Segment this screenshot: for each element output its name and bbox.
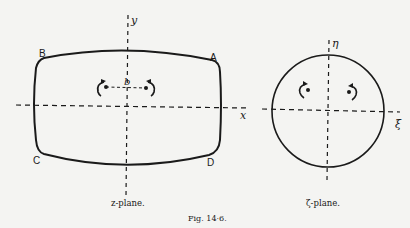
vortex-left-point bbox=[104, 85, 108, 89]
z-plane-x-axis bbox=[16, 105, 248, 108]
corner-label-c: C bbox=[33, 155, 40, 166]
zeta-vortex-right-point bbox=[347, 90, 351, 94]
zeta-vortex-left-point bbox=[306, 88, 310, 92]
corner-label-d: D bbox=[207, 157, 214, 168]
z-plane-y-axis bbox=[126, 15, 128, 196]
z-plane-y-label: y bbox=[130, 14, 138, 27]
z-plane-x-label: x bbox=[240, 109, 247, 122]
zeta-plane-caption: ζ-plane. bbox=[306, 198, 340, 208]
figure-canvas: y x b B A C D z-plane. η ξ ζ-plane. Fig.… bbox=[0, 0, 410, 228]
z-plane-diagram: y x b B A C D z-plane. bbox=[16, 14, 248, 208]
zeta-plane-xi-axis bbox=[262, 109, 400, 112]
z-plane-caption: z-plane. bbox=[111, 198, 145, 208]
zeta-plane-diagram: η ξ ζ-plane. bbox=[262, 37, 402, 208]
vortex-separation-line bbox=[106, 87, 146, 88]
figure-caption: Fig. 14·6. bbox=[188, 214, 227, 223]
zeta-plane-eta-label: η bbox=[332, 37, 339, 50]
zeta-plane-xi-label: ξ bbox=[395, 118, 402, 131]
z-plane-boundary bbox=[34, 50, 221, 164]
vortex-separation-b-label: b bbox=[124, 76, 130, 87]
vortex-right-point bbox=[144, 86, 148, 90]
corner-label-b: B bbox=[39, 48, 46, 59]
corner-label-a: A bbox=[210, 52, 217, 63]
